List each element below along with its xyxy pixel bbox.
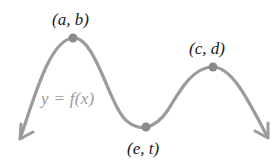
point-e-t-dot	[142, 123, 151, 132]
function-graph-diagram: (a, b) (c, d) (e, t) y = f(x)	[0, 0, 277, 165]
point-a-b-dot	[69, 34, 78, 43]
point-label-a-b: (a, b)	[52, 11, 89, 28]
point-label-e-t: (e, t)	[127, 140, 159, 157]
function-curve	[21, 38, 266, 136]
point-label-c-d: (c, d)	[189, 40, 225, 57]
left-arrowhead-icon	[20, 124, 33, 139]
point-c-d-dot	[209, 63, 218, 72]
function-label: y = f(x)	[41, 90, 95, 107]
